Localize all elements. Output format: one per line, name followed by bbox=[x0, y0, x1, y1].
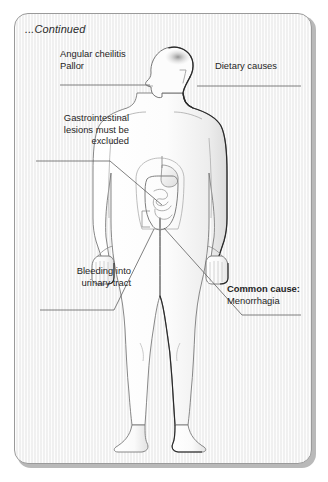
label-bleeding-urinary: Bleeding into urinary tract bbox=[39, 265, 131, 288]
left-foot bbox=[114, 425, 148, 452]
label-common-cause: Common cause: Menorrhagia bbox=[227, 283, 300, 306]
label-line-gi-3: excluded bbox=[33, 135, 129, 147]
anatomical-illustration bbox=[14, 13, 312, 464]
label-angular-cheilitis: Angular cheilitis Pallor bbox=[60, 48, 126, 71]
label-gastrointestinal: Gastrointestinal lesions must be exclude… bbox=[33, 112, 129, 147]
label-line-gi-2: lesions must be bbox=[33, 124, 129, 136]
label-line-gi-1: Gastrointestinal bbox=[33, 112, 129, 124]
label-line-common-bold: Common cause: bbox=[227, 283, 300, 295]
diagram-page: ...Continued bbox=[0, 0, 328, 482]
body-figure bbox=[92, 47, 228, 452]
common-cause-bold-text: Common cause: bbox=[227, 283, 300, 294]
label-line-menorrhagia: Menorrhagia bbox=[227, 295, 300, 307]
label-line-cheilitis: Angular cheilitis bbox=[60, 48, 126, 60]
label-line-dietary: Dietary causes bbox=[215, 60, 277, 72]
label-line-pallor: Pallor bbox=[60, 60, 126, 72]
label-line-bleeding-1: Bleeding into bbox=[39, 265, 131, 277]
right-foot bbox=[172, 425, 206, 452]
label-dietary-causes: Dietary causes bbox=[215, 60, 277, 72]
label-line-bleeding-2: urinary tract bbox=[39, 277, 131, 289]
